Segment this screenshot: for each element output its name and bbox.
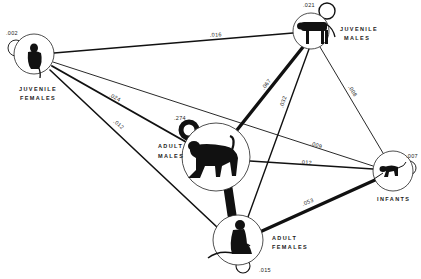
edge-jm-inf [320,47,383,153]
label-juvenile-females-2: FEMALES [20,95,56,101]
edge-value-jf-jm: .016 [210,31,222,38]
label-adult-males-2: MALES [158,153,184,159]
edge-jm-af [248,49,309,217]
label-juvenile-males-1: JUVENILE [340,26,378,32]
edge-am-af [228,188,232,215]
label-adult-males-1: ADULT [158,143,183,149]
edge-value-af-inf: .053 [301,197,314,207]
edge-jm-am [237,47,303,130]
node-juvenile-females [14,34,54,78]
node-adult-females [208,215,263,265]
edge-value-jf-inf: .009 [310,140,323,149]
self-value-inf: .007 [406,153,418,159]
node-adult-males [182,123,250,191]
edge-jf-jm [54,33,293,53]
label-infants: INFANTS [377,196,410,202]
self-value-am: .274 [174,115,186,121]
self-value-jf: .002 [6,30,18,36]
sociogram-diagram: JUVENILE FEMALES JUVENILE MALES ADULT MA… [0,0,421,279]
label-adult-females-1: ADULT [272,235,297,241]
edge-jf-am [52,66,186,142]
label-juvenile-males-2: MALES [344,35,370,41]
label-adult-females-2: FEMALES [272,244,308,250]
edge-value-jf-af: .012 [112,118,125,130]
edge-value-jm-af: .032 [278,95,287,108]
self-value-af: .015 [259,267,271,273]
edge-value-am-af: .488 [236,193,243,205]
self-value-jm: .021 [303,2,315,8]
label-juvenile-females-1: JUVENILE [19,86,57,92]
edge-value-am-inf: .012 [300,159,312,166]
edge-af-inf [262,180,375,231]
